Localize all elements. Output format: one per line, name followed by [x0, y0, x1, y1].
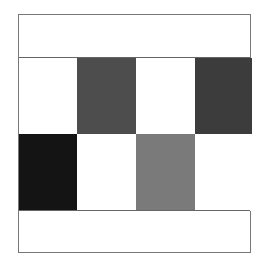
grid-cell-black [19, 134, 77, 211]
grid-cell-white [136, 58, 195, 134]
bottom-band [19, 210, 250, 252]
grid-cell-darker-gray [195, 58, 252, 134]
top-band [19, 15, 250, 58]
grid-cell-white [19, 58, 77, 134]
grid-cell-white [195, 134, 252, 211]
grid-cell-dark-gray [77, 58, 136, 134]
grid-cell-white [77, 134, 136, 211]
grid-frame [18, 14, 251, 253]
grid-cell-medium-gray [136, 134, 195, 211]
